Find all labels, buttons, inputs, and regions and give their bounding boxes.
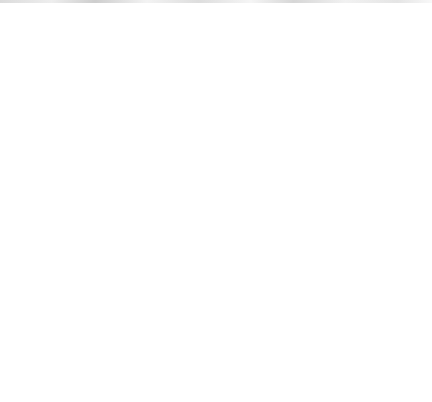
figure-canvas [0,0,432,402]
waterfall-plot-svg [0,0,432,402]
scan-artifact-line [0,0,432,3]
